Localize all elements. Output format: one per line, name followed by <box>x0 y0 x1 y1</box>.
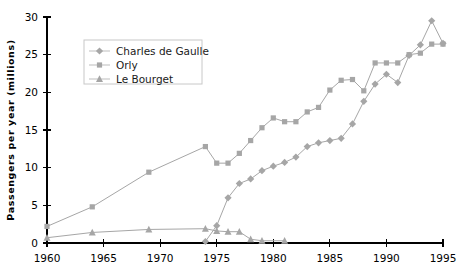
x-tick-label: 1980 <box>260 252 287 264</box>
series-charles-de-gaulle <box>202 17 447 245</box>
passenger-traffic-line-chart: 0510152025301960196519701975198019851990… <box>0 0 457 275</box>
data-point-diamond <box>315 139 322 146</box>
legend-label: Le Bourget <box>116 73 173 85</box>
y-tick-label: 15 <box>25 124 38 136</box>
data-point-square <box>395 60 400 65</box>
data-point-square <box>440 42 445 47</box>
y-tick-label: 10 <box>25 161 38 173</box>
data-point-square <box>248 138 253 143</box>
x-tick-label: 1965 <box>90 252 117 264</box>
data-point-square <box>271 115 276 120</box>
data-point-diamond <box>270 163 277 170</box>
data-point-diamond <box>326 137 333 144</box>
y-tick-label: 20 <box>25 86 38 98</box>
data-point-square <box>259 125 264 130</box>
chart-legend: Charles de GaulleOrlyLe Bourget <box>84 40 209 85</box>
data-point-square <box>361 88 366 93</box>
data-point-square <box>350 77 355 82</box>
data-point-diamond <box>360 98 367 105</box>
data-point-diamond <box>247 175 254 182</box>
chart-container: 0510152025301960196519701975198019851990… <box>0 0 457 275</box>
data-point-square <box>97 62 102 67</box>
data-point-square <box>203 144 208 149</box>
data-point-diamond <box>281 159 288 166</box>
data-point-square <box>373 60 378 65</box>
data-point-square <box>327 87 332 92</box>
y-tick-label: 30 <box>25 11 38 23</box>
data-point-square <box>44 224 49 229</box>
series-le-bourget <box>44 225 289 244</box>
data-point-square <box>146 170 151 175</box>
data-point-diamond <box>428 17 435 24</box>
data-point-square <box>293 119 298 124</box>
legend-label: Orly <box>116 59 138 71</box>
data-point-diamond <box>394 79 401 86</box>
x-tick-label: 1960 <box>34 252 61 264</box>
data-point-square <box>214 161 219 166</box>
y-tick-label: 5 <box>31 199 38 211</box>
data-point-square <box>406 52 411 57</box>
data-point-square <box>282 119 287 124</box>
y-tick-label: 0 <box>31 237 38 249</box>
data-point-square <box>225 161 230 166</box>
data-point-square <box>429 42 434 47</box>
x-tick-label: 1970 <box>147 252 174 264</box>
x-tick-label: 1990 <box>373 252 400 264</box>
x-tick-label: 1995 <box>430 252 457 264</box>
x-tick-label: 1985 <box>316 252 343 264</box>
data-point-square <box>339 78 344 83</box>
data-point-square <box>418 51 423 56</box>
data-point-square <box>316 105 321 110</box>
y-axis-title: Passengers per year (millions) <box>5 39 16 220</box>
data-point-triangle <box>247 235 254 242</box>
y-tick-label: 25 <box>25 48 38 60</box>
data-point-diamond <box>202 238 209 245</box>
data-point-square <box>305 109 310 114</box>
data-point-square <box>384 60 389 65</box>
data-point-diamond <box>258 167 265 174</box>
data-point-square <box>237 151 242 156</box>
x-tick-label: 1975 <box>203 252 230 264</box>
legend-label: Charles de Gaulle <box>116 45 209 57</box>
data-point-square <box>90 204 95 209</box>
